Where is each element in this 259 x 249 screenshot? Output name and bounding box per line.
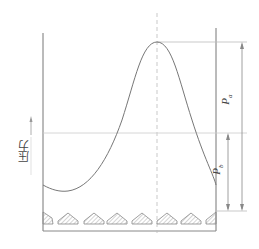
pressure-axis-arrow-icon: [30, 116, 33, 122]
pb-subscript: b: [217, 164, 225, 168]
pa-symbol: P: [219, 98, 231, 105]
teeth-row: [43, 212, 216, 224]
tooth-8: [206, 212, 216, 224]
pressure-diagram: [0, 0, 259, 249]
tooth-7: [181, 213, 201, 224]
pa-arrow-bottom-icon: [240, 204, 244, 211]
pressure-curve-right-tail: [192, 120, 201, 192]
pa-arrow-top-icon: [240, 42, 244, 49]
tooth-6: [157, 213, 177, 224]
pa-label: Pa: [219, 94, 234, 104]
pb-label: Pb: [210, 164, 225, 174]
pb-arrow-bottom-icon: [226, 204, 230, 211]
pa-subscript: a: [226, 94, 234, 98]
tooth-2: [58, 213, 78, 224]
tooth-5: [132, 213, 152, 224]
pressure-curve: [43, 42, 216, 191]
pb-symbol: P: [210, 168, 222, 175]
tooth-3: [84, 213, 104, 224]
pb-arrow-top-icon: [226, 133, 230, 140]
pressure-axis-label: 压力: [18, 140, 32, 162]
tooth-1: [43, 212, 53, 224]
tooth-4: [107, 213, 127, 224]
